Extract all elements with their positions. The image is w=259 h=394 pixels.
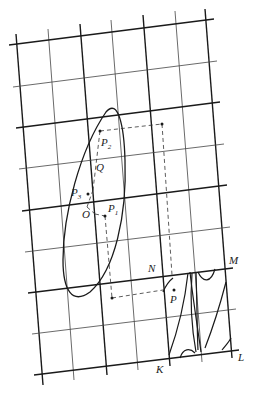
label-p: P [169,293,177,305]
label-q: Q [96,161,104,173]
label-l: L [237,351,244,363]
point-p1-image [111,297,114,300]
klmn-curves [163,269,231,358]
point-p2-image [161,123,164,126]
svg-text:P1: P1 [107,202,118,217]
label-m: M [228,254,239,266]
point-p3 [87,193,90,196]
label-k: K [155,363,164,375]
label-n: N [147,262,156,274]
label-o: O [82,208,90,220]
lattice-diagram: P2 Q P3 O P1 N P M K L [0,0,259,394]
point-p1 [104,215,107,218]
point-p [173,289,176,292]
svg-text:P2: P2 [100,136,112,151]
point-p2 [99,130,102,133]
svg-text:P3: P3 [70,186,82,201]
